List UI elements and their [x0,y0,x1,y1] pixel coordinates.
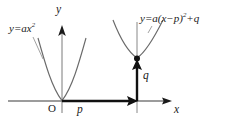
origin-label: O [48,103,56,114]
equation-left-base: y=ax [9,22,32,34]
x-axis-label: x [174,104,179,116]
horizontal-shift-label: p [77,104,83,116]
leader-line-right-equation [148,26,152,33]
equation-right-suffix: +q [186,12,199,24]
y-axis-label: y [56,4,61,16]
vertical-shift-label: q [143,70,149,82]
vertex-point-dot [134,56,140,62]
equation-label-shifted-parabola: y=a(x−p)2+q [140,13,199,24]
leader-line-left-equation [33,37,43,59]
curve-y-equals-a-x-minus-p-squared-plus-q [113,20,163,58]
equation-left-exponent: 2 [32,21,35,28]
figure-canvas [0,0,236,125]
equation-right-base: y=a(x−p) [140,12,183,24]
parabola-translation-figure: y=ax2 y=a(x−p)2+q y x O p q [0,0,236,125]
equation-label-original-parabola: y=ax2 [9,23,35,34]
